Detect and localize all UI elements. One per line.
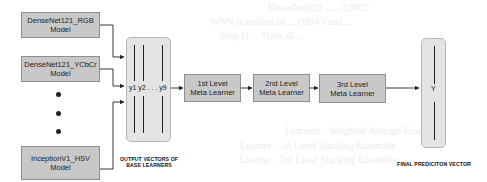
vector-line	[434, 46, 435, 84]
base-learner-densenet-ycbcr: DenseNet121_YCbCrModel	[21, 56, 100, 82]
final-prediction-vector: Y	[421, 38, 446, 148]
box-label: 1st Level	[190, 79, 235, 88]
final-vector-label: Y	[431, 85, 436, 92]
vector-line	[162, 45, 163, 81]
vector-line	[134, 45, 135, 81]
output-vectors-container: y1 y2 . . . y9	[126, 37, 171, 142]
box-label: Meta Learner	[259, 88, 304, 97]
caption-line: BASE LEARNERS	[116, 162, 182, 168]
vector-line	[162, 96, 163, 133]
box-label: Meta Learner	[190, 88, 235, 97]
base-learner-densenet-rgb: DenseNet121_RGBModel	[21, 12, 100, 38]
vector-line	[143, 96, 144, 133]
box-label: DenseNet121_YCbCr	[24, 60, 97, 69]
vector-line	[143, 45, 144, 81]
box-label: Model	[24, 69, 97, 78]
box-label: Model	[31, 163, 90, 172]
box-label: InceptionV1_HSV	[31, 154, 90, 163]
box-label: DenseNet121_RGB	[27, 16, 93, 25]
box-label: 3rd Level	[330, 80, 375, 89]
box-label: 2nd Level	[259, 79, 304, 88]
ellipsis-dot	[56, 111, 61, 116]
meta-learner-level-2: 2nd LevelMeta Learner	[253, 74, 310, 102]
meta-learner-level-3: 3rd LevelMeta Learner	[319, 74, 386, 103]
ellipsis-dot	[56, 92, 61, 97]
meta-learner-level-1: 1st LevelMeta Learner	[184, 74, 241, 102]
vector-line	[434, 102, 435, 140]
final-vector-caption: FINAL PREDICITON VECTOR	[386, 161, 482, 167]
base-learner-inception-hsv: InceptionV1_HSVModel	[21, 146, 100, 180]
ellipsis-dot	[56, 129, 61, 134]
vector-line	[134, 96, 135, 133]
box-label: Model	[27, 25, 93, 34]
output-vectors-caption: OUTPUT VECTORS OF BASE LEARNERS	[116, 156, 182, 168]
box-label: Meta Learner	[330, 89, 375, 98]
vector-label: y1 y2 . . . y9	[129, 84, 167, 91]
